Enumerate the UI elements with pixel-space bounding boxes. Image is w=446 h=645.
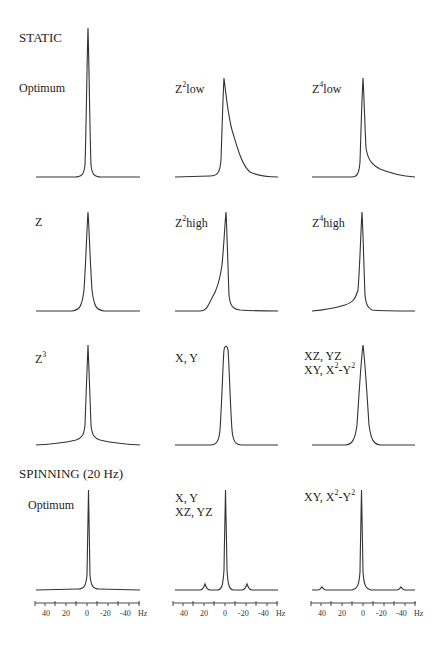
axis-col1	[35, 601, 140, 606]
tick-label: 40	[42, 609, 50, 618]
tick-label: 20	[338, 609, 346, 618]
tick-label: -20	[238, 609, 249, 618]
clipped-caption	[38, 638, 418, 645]
axis-col2	[173, 601, 278, 606]
tick-label: 0	[361, 609, 365, 618]
axis-unit: Hz	[276, 609, 285, 618]
tick-label: -20	[376, 609, 387, 618]
tick-label: -40	[258, 609, 269, 618]
spectrum-spin-xy-x2y2	[312, 490, 415, 590]
spectrum-static-z2low	[175, 78, 278, 177]
spectrum-spin-xy-xz-yz	[175, 490, 278, 590]
tick-label: 0	[85, 609, 89, 618]
tick-label: 0	[223, 609, 227, 618]
spectrum-static-xz-yz	[312, 345, 415, 445]
spectrum-static-z3	[36, 345, 140, 445]
tick-label: 20	[62, 609, 70, 618]
tick-label: 40	[318, 609, 326, 618]
spectrum-static-z4high	[312, 212, 415, 311]
axis-unit: Hz	[138, 609, 147, 618]
spectra-plot	[0, 0, 446, 645]
spectrum-static-z	[36, 212, 140, 311]
spectrum-static-z2high	[175, 212, 278, 311]
spectrum-static-optimum	[36, 28, 140, 177]
tick-label: -40	[396, 609, 407, 618]
tick-label: 40	[180, 609, 188, 618]
spectrum-static-z4low	[312, 78, 415, 177]
spectrum-spin-optimum	[36, 490, 140, 590]
tick-label: 20	[200, 609, 208, 618]
axis-col3	[311, 601, 416, 606]
axis-unit: Hz	[414, 609, 423, 618]
tick-label: -20	[100, 609, 111, 618]
spectrum-static-xy	[175, 346, 278, 445]
tick-label: -40	[120, 609, 131, 618]
